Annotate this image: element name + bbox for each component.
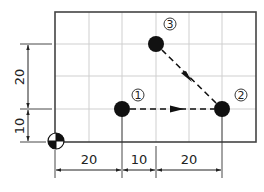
svg-text:1: 1 bbox=[135, 89, 142, 102]
point-3 bbox=[148, 36, 164, 52]
point-2 bbox=[214, 101, 230, 117]
dim-horizontal-20-b: 20 bbox=[181, 152, 198, 167]
point-1 bbox=[114, 101, 130, 117]
dim-horizontal-10: 10 bbox=[131, 152, 148, 167]
dim-vertical-10: 10 bbox=[12, 118, 27, 135]
direction-arrow-icon bbox=[170, 106, 184, 113]
grid bbox=[55, 12, 256, 142]
dim-horizontal-20-a: 20 bbox=[81, 152, 98, 167]
point-label-1: 1 bbox=[132, 89, 144, 102]
point-label-2: 2 bbox=[235, 89, 247, 102]
coordinate-diagram: 20 10 20 10 20 1 2 3 bbox=[0, 0, 264, 192]
point-label-3: 3 bbox=[164, 18, 176, 31]
origin-symbol-icon bbox=[48, 133, 64, 149]
dim-vertical-20: 20 bbox=[12, 69, 27, 86]
svg-text:3: 3 bbox=[167, 18, 174, 31]
svg-text:2: 2 bbox=[238, 89, 245, 102]
path-segment-1-2 bbox=[130, 106, 214, 113]
horizontal-extension-lines bbox=[55, 114, 222, 178]
